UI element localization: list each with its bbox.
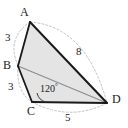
geometry-drawing: [0, 0, 128, 128]
degree-symbol: °: [55, 82, 58, 90]
geometry-figure: A B C D 3 3 5 8 120°: [0, 0, 128, 128]
angle-value: 120: [40, 83, 55, 94]
edge-cd: [32, 102, 107, 103]
side-length-cd: 5: [65, 112, 71, 123]
side-length-bc: 3: [8, 81, 14, 92]
side-length-ab: 3: [5, 32, 11, 43]
quadrilateral-abcd-fill: [18, 22, 107, 103]
vertex-label-d: D: [112, 93, 121, 105]
vertex-label-b: B: [3, 59, 11, 71]
side-length-ad: 8: [76, 46, 82, 57]
vertex-label-a: A: [20, 6, 29, 18]
vertex-label-c: C: [27, 105, 35, 117]
angle-measure-bcd: 120°: [40, 83, 58, 94]
